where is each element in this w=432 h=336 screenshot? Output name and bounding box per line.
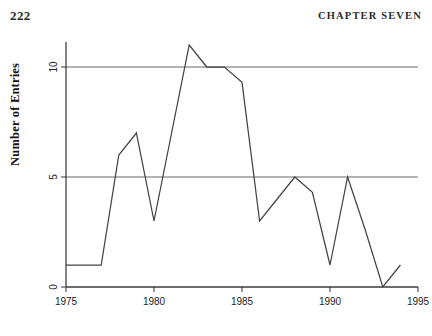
y-axis-tick-labels: 0510 xyxy=(48,61,59,290)
book-page: 222 CHAPTER SEVEN Number of Entries 1975… xyxy=(0,0,432,336)
x-tick-label-1985: 1985 xyxy=(231,296,254,307)
running-head: 222 CHAPTER SEVEN xyxy=(0,8,432,30)
x-axis-ticks xyxy=(66,287,418,292)
line-chart-figure: Number of Entries 19751980198519901995 0… xyxy=(0,30,432,336)
y-axis-ticks xyxy=(61,67,66,287)
series-polyline xyxy=(66,45,400,287)
x-tick-label-1975: 1975 xyxy=(55,296,78,307)
page-number: 222 xyxy=(10,8,31,24)
gridlines xyxy=(66,67,418,287)
y-tick-label-10: 10 xyxy=(48,61,59,73)
x-axis-tick-labels: 19751980198519901995 xyxy=(55,296,430,307)
data-series-entries xyxy=(66,45,400,287)
axes xyxy=(66,42,418,287)
x-tick-label-1980: 1980 xyxy=(143,296,166,307)
x-tick-label-1990: 1990 xyxy=(319,296,342,307)
y-tick-label-0: 0 xyxy=(48,284,59,290)
x-tick-label-1995: 1995 xyxy=(407,296,430,307)
chapter-title: CHAPTER SEVEN xyxy=(318,10,422,21)
chart-canvas: 19751980198519901995 0510 xyxy=(0,30,432,336)
y-tick-label-5: 5 xyxy=(48,174,59,180)
